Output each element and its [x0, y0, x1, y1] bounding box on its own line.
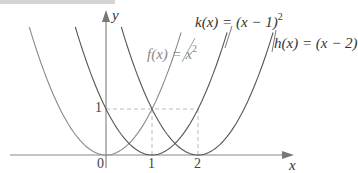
label-h: h(x) = (x − 2)	[274, 36, 358, 51]
label-k: k(x) = (x − 1)2	[195, 12, 283, 30]
y-axis-label: y	[112, 8, 119, 23]
curve-h	[121, 27, 273, 155]
x-tick-0: 0	[97, 157, 104, 171]
x-axis-label: x	[289, 158, 296, 173]
y-axis-arrow-icon	[102, 10, 110, 22]
x-tick-2: 2	[194, 157, 201, 171]
axes	[10, 18, 286, 168]
label-f: f(x) = x2	[147, 44, 197, 62]
y-tick-1: 1	[95, 101, 102, 115]
x-tick-1: 1	[148, 157, 155, 171]
